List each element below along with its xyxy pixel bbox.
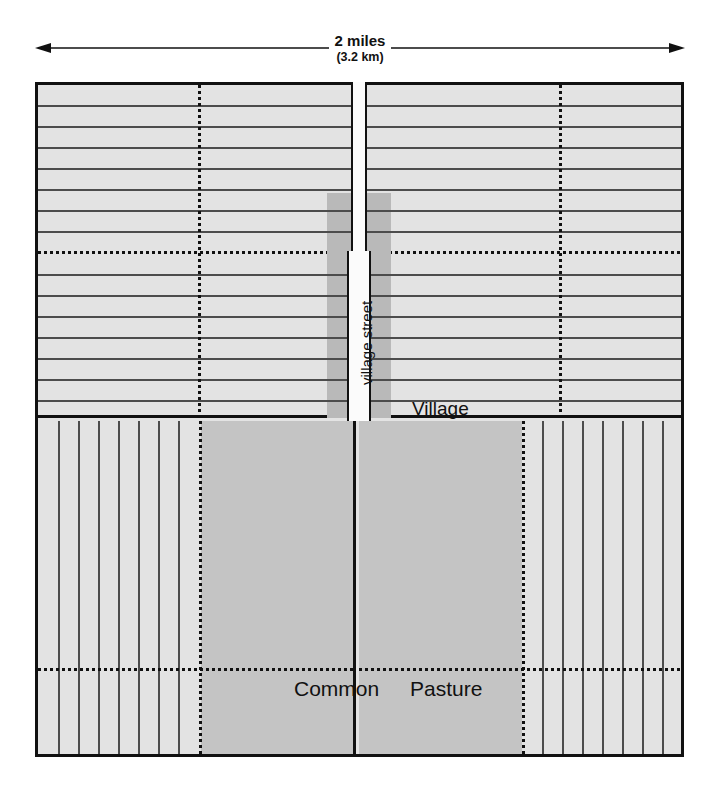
quadrant-top-left bbox=[38, 85, 356, 418]
quadrant-bottom-right bbox=[359, 421, 681, 754]
common-label: Common bbox=[294, 677, 379, 701]
quadrant-top-right bbox=[359, 85, 681, 418]
dotted-subdivision-horizontal bbox=[38, 668, 353, 671]
township-boundary: Village village street Common Pasture bbox=[35, 82, 684, 757]
horizontal-strip-lines bbox=[38, 85, 353, 415]
open-field-township-diagram: 2 miles (3.2 km) bbox=[0, 0, 716, 799]
village-street-label: village street bbox=[358, 301, 375, 385]
dotted-subdivision-horizontal bbox=[359, 251, 681, 254]
dotted-subdivision-vertical bbox=[559, 85, 562, 415]
scale-secondary-label: (3.2 km) bbox=[35, 51, 685, 65]
dotted-subdivision-vertical bbox=[198, 85, 201, 415]
village-street-north bbox=[351, 82, 367, 254]
pasture-label: Pasture bbox=[410, 677, 482, 701]
common-pasture-block bbox=[359, 421, 522, 754]
common-grazing-block bbox=[201, 421, 353, 754]
quadrant-bottom-left bbox=[38, 421, 356, 754]
dotted-subdivision-vertical bbox=[522, 421, 525, 754]
village-label: Village bbox=[412, 398, 469, 420]
scale-labels: 2 miles (3.2 km) bbox=[35, 32, 685, 64]
dotted-subdivision-horizontal bbox=[38, 251, 353, 254]
dotted-subdivision-horizontal bbox=[359, 668, 681, 671]
scale-primary-label: 2 miles bbox=[329, 33, 392, 50]
horizontal-strip-lines bbox=[359, 85, 681, 415]
dotted-subdivision-vertical bbox=[199, 421, 202, 754]
